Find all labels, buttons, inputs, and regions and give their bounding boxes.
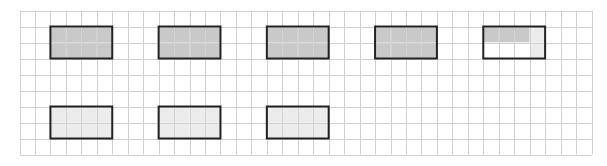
cell-dark bbox=[50, 27, 65, 43]
cell-light bbox=[282, 107, 297, 123]
cell-light bbox=[66, 107, 81, 123]
cell-light bbox=[174, 123, 189, 139]
cell-light bbox=[205, 123, 220, 139]
cell-light bbox=[298, 107, 313, 123]
cell-light bbox=[267, 107, 282, 123]
cell-dark bbox=[499, 27, 514, 43]
cell-white bbox=[514, 43, 529, 59]
cell-dark bbox=[267, 27, 282, 43]
cell-dark bbox=[205, 27, 220, 43]
cell-light bbox=[190, 107, 205, 123]
grid-diagram bbox=[0, 0, 607, 166]
cell-light bbox=[50, 107, 65, 123]
cell-dark bbox=[421, 43, 436, 59]
cell-dark bbox=[313, 27, 328, 43]
cell-dark bbox=[267, 43, 282, 59]
cell-white bbox=[483, 43, 498, 59]
cell-light bbox=[50, 123, 65, 139]
cell-dark bbox=[190, 27, 205, 43]
cell-dark bbox=[421, 27, 436, 43]
cell-dark bbox=[483, 27, 498, 43]
cell-dark bbox=[97, 43, 112, 59]
cell-dark bbox=[205, 43, 220, 59]
cell-light bbox=[81, 123, 96, 139]
cell-light bbox=[66, 123, 81, 139]
cell-light bbox=[159, 107, 174, 123]
cell-light bbox=[81, 107, 96, 123]
cell-dark bbox=[406, 27, 421, 43]
cell-dark bbox=[375, 43, 390, 59]
cell-light bbox=[205, 107, 220, 123]
cell-light bbox=[313, 107, 328, 123]
cell-light bbox=[97, 123, 112, 139]
cell-dark bbox=[174, 27, 189, 43]
cell-light bbox=[190, 123, 205, 139]
cell-dark bbox=[406, 43, 421, 59]
cell-dark bbox=[159, 43, 174, 59]
cell-dark bbox=[97, 27, 112, 43]
cell-dark bbox=[313, 43, 328, 59]
cell-light bbox=[267, 123, 282, 139]
cell-dark bbox=[391, 43, 406, 59]
cell-light bbox=[298, 123, 313, 139]
cell-dark bbox=[282, 43, 297, 59]
cell-dark bbox=[66, 43, 81, 59]
cell-dark bbox=[66, 27, 81, 43]
cell-dark bbox=[298, 27, 313, 43]
cell-dark bbox=[81, 43, 96, 59]
cell-light bbox=[313, 123, 328, 139]
cell-dark bbox=[174, 43, 189, 59]
cell-dark bbox=[190, 43, 205, 59]
cell-light bbox=[530, 43, 545, 59]
cell-dark bbox=[391, 27, 406, 43]
cell-dark bbox=[282, 27, 297, 43]
cell-dark bbox=[159, 27, 174, 43]
cell-dark bbox=[375, 27, 390, 43]
cell-dark bbox=[514, 27, 529, 43]
cell-light bbox=[97, 107, 112, 123]
cell-light bbox=[159, 123, 174, 139]
cell-light bbox=[174, 107, 189, 123]
cell-light bbox=[530, 27, 545, 43]
cell-dark bbox=[50, 43, 65, 59]
cell-white bbox=[499, 43, 514, 59]
cell-dark bbox=[81, 27, 96, 43]
cell-light bbox=[282, 123, 297, 139]
cell-dark bbox=[298, 43, 313, 59]
